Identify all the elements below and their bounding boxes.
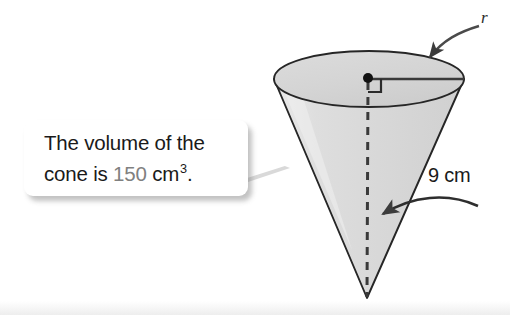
center-dot <box>363 73 373 83</box>
volume-unit: cm <box>147 162 179 185</box>
figure-canvas: The volume of the cone is 150 cm3. r 9 c… <box>0 0 510 315</box>
radius-callout-arrow <box>430 26 479 57</box>
volume-value: 150 <box>113 162 147 185</box>
radius-label: r <box>481 8 488 28</box>
volume-unit-exponent: 3 <box>179 161 187 176</box>
cone-height-dashed-line <box>367 82 368 297</box>
callout-line-2-suffix: . <box>187 162 193 185</box>
volume-callout-text: The volume of the cone is 150 cm3. <box>44 127 240 189</box>
callout-line-2: cone is 150 cm3. <box>44 158 240 189</box>
callout-line-2-prefix: cone is <box>44 162 113 185</box>
callout-line-1: The volume of the <box>44 127 240 158</box>
slant-height-label: 9 cm <box>428 164 471 187</box>
